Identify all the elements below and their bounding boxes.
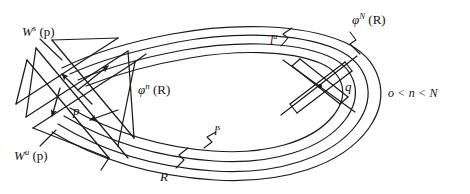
label-unstable-manifold: Wu (p) bbox=[14, 148, 48, 162]
label-index-range: o < n < N bbox=[388, 87, 438, 99]
point-q-dot bbox=[318, 84, 322, 88]
label-rectangle-R: R bbox=[160, 170, 168, 183]
arrow-in-right bbox=[90, 110, 118, 120]
leader-wu bbox=[40, 130, 56, 146]
label-stable-manifold: Ws (p) bbox=[22, 24, 55, 38]
label-point-p: p bbox=[73, 104, 80, 117]
left-crossing-stubs bbox=[101, 54, 146, 170]
label-l-u: lu bbox=[270, 33, 277, 46]
label-phi-n-R: φn (R) bbox=[138, 82, 170, 96]
figure-root: Ws (p) Wu (p) φn (R) φN (R) lu ls R q p … bbox=[0, 0, 470, 194]
label-l-s: ls bbox=[214, 124, 221, 137]
label-point-q: q bbox=[345, 80, 352, 93]
leader-lines bbox=[40, 28, 360, 168]
left-crossing-strips bbox=[16, 38, 135, 158]
flow-arrows bbox=[52, 66, 118, 120]
band-curves bbox=[52, 27, 381, 181]
label-phi-N-R: φN (R) bbox=[352, 12, 386, 26]
